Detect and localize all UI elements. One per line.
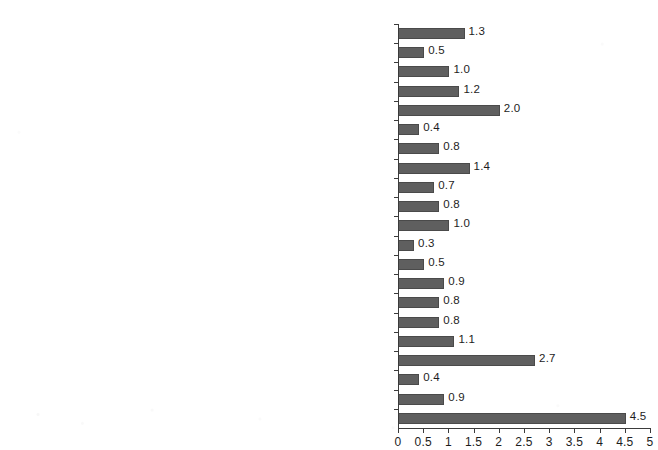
- x-axis-tick-label: 3: [546, 435, 553, 449]
- y-axis-tick: [394, 43, 398, 44]
- chart-title: [40, 14, 658, 22]
- y-axis-tick: [394, 351, 398, 352]
- x-axis-tick: [549, 428, 550, 433]
- bar: [399, 124, 419, 135]
- bar-value-label: 0.7: [438, 179, 455, 191]
- x-axis-tick-label: 1: [445, 435, 452, 449]
- bar-value-label: 0.8: [443, 314, 460, 326]
- y-axis-tick: [394, 101, 398, 102]
- y-axis-tick: [394, 139, 398, 140]
- bar: [399, 28, 465, 39]
- x-axis-tick-label: 2: [495, 435, 502, 449]
- bar: [399, 355, 535, 366]
- bar: [399, 47, 424, 58]
- x-axis-tick: [398, 428, 399, 433]
- x-axis-tick-label: 4: [596, 435, 603, 449]
- y-axis-tick: [394, 236, 398, 237]
- bar-value-label: 2.7: [539, 352, 556, 364]
- y-axis-tick: [394, 274, 398, 275]
- bar: [399, 201, 439, 212]
- y-axis-tick: [394, 62, 398, 63]
- bar: [399, 336, 454, 347]
- x-axis-tick: [574, 428, 575, 433]
- bar-value-label: 0.8: [443, 198, 460, 210]
- x-axis-tick-label: 1.5: [465, 435, 482, 449]
- bar: [399, 394, 444, 405]
- bar-value-label: 0.9: [448, 391, 465, 403]
- x-axis-tick: [423, 428, 424, 433]
- bar-value-label: 0.8: [443, 140, 460, 152]
- x-axis-tick: [625, 428, 626, 433]
- y-axis-tick: [394, 293, 398, 294]
- bar-value-label: 0.8: [443, 294, 460, 306]
- y-axis-tick: [394, 197, 398, 198]
- bar: [399, 240, 414, 251]
- bar: [399, 374, 419, 385]
- bar: [399, 413, 626, 424]
- bar: [399, 182, 434, 193]
- y-axis-tick: [394, 82, 398, 83]
- y-axis-tick: [394, 24, 398, 25]
- y-axis-tick: [394, 409, 398, 410]
- y-axis-tick: [394, 313, 398, 314]
- bar: [399, 66, 449, 77]
- x-axis-tick: [448, 428, 449, 433]
- x-axis-tick-label: 3.5: [566, 435, 583, 449]
- y-axis-tick: [394, 255, 398, 256]
- bar-value-label: 2.0: [504, 102, 521, 114]
- x-axis-tick: [474, 428, 475, 433]
- bar: [399, 86, 459, 97]
- x-axis-tick: [600, 428, 601, 433]
- x-axis-tick-label: 4.5: [616, 435, 633, 449]
- bar-value-label: 1.0: [453, 63, 470, 75]
- bar-value-label: 0.9: [448, 275, 465, 287]
- y-axis-tick: [394, 178, 398, 179]
- bar-value-label: 1.4: [474, 160, 491, 172]
- plot-area: Unclassified1.3Public Administration0.5O…: [398, 24, 650, 428]
- bar: [399, 278, 444, 289]
- bar: [399, 143, 439, 154]
- bar: [399, 105, 500, 116]
- bar: [399, 259, 424, 270]
- horizontal-bar-chart: Unclassified1.3Public Administration0.5O…: [40, 16, 658, 450]
- y-axis-tick: [394, 159, 398, 160]
- y-axis-tick: [394, 370, 398, 371]
- bar-value-label: 1.1: [458, 333, 475, 345]
- bar-value-label: 0.4: [423, 121, 440, 133]
- bar-value-label: 0.4: [423, 371, 440, 383]
- x-axis-tick-label: 2.5: [515, 435, 532, 449]
- bar: [399, 220, 449, 231]
- y-axis-tick: [394, 332, 398, 333]
- bar-value-label: 4.5: [630, 410, 647, 422]
- bar-value-label: 0.5: [428, 256, 445, 268]
- bar: [399, 317, 439, 328]
- y-axis-tick: [394, 390, 398, 391]
- x-axis-tick: [499, 428, 500, 433]
- bar-value-label: 0.3: [418, 237, 435, 249]
- y-axis-tick: [394, 216, 398, 217]
- x-axis-tick-label: 0: [395, 435, 402, 449]
- bar-value-label: 0.5: [428, 44, 445, 56]
- bar-value-label: 1.3: [469, 25, 486, 37]
- bar: [399, 297, 439, 308]
- x-axis-tick: [650, 428, 651, 433]
- x-axis-tick-label: 0.5: [415, 435, 432, 449]
- y-axis-tick: [394, 120, 398, 121]
- x-axis-tick-label: 5: [647, 435, 654, 449]
- bar: [399, 163, 470, 174]
- bar-value-label: 1.0: [453, 217, 470, 229]
- x-axis-tick: [524, 428, 525, 433]
- bar-value-label: 1.2: [463, 83, 480, 95]
